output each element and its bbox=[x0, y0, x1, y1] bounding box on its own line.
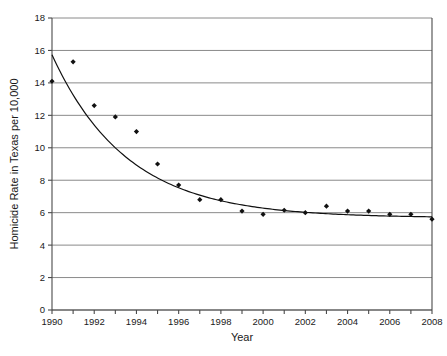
y-tick-label-10: 10 bbox=[34, 142, 45, 153]
x-tick-label-2006: 2006 bbox=[379, 316, 400, 327]
y-tick-label-12: 12 bbox=[34, 110, 45, 121]
chart-container: 024681012141618 199019921994199619982000… bbox=[0, 0, 447, 356]
y-tick-label-6: 6 bbox=[40, 207, 45, 218]
x-tick-label-2000: 2000 bbox=[253, 316, 274, 327]
x-tick-label-2004: 2004 bbox=[337, 316, 358, 327]
x-tick-label-1994: 1994 bbox=[126, 316, 147, 327]
x-tick-label-2002: 2002 bbox=[295, 316, 316, 327]
y-tick-label-0: 0 bbox=[40, 304, 45, 315]
homicide-rate-scatter-chart: 024681012141618 199019921994199619982000… bbox=[0, 0, 447, 356]
y-tick-label-4: 4 bbox=[40, 240, 45, 251]
x-axis-title: Year bbox=[231, 331, 254, 343]
chart-background bbox=[0, 0, 447, 356]
y-tick-label-2: 2 bbox=[40, 272, 45, 283]
y-tick-label-16: 16 bbox=[34, 45, 45, 56]
x-tick-label-2008: 2008 bbox=[421, 316, 442, 327]
x-tick-label-1990: 1990 bbox=[41, 316, 62, 327]
x-tick-label-1998: 1998 bbox=[210, 316, 231, 327]
y-tick-label-18: 18 bbox=[34, 12, 45, 23]
x-tick-label-1996: 1996 bbox=[168, 316, 189, 327]
y-tick-label-14: 14 bbox=[34, 77, 45, 88]
y-tick-label-8: 8 bbox=[40, 175, 45, 186]
y-axis-title: Homicide Rate in Texas per 10,000 bbox=[8, 78, 20, 249]
x-tick-label-1992: 1992 bbox=[84, 316, 105, 327]
